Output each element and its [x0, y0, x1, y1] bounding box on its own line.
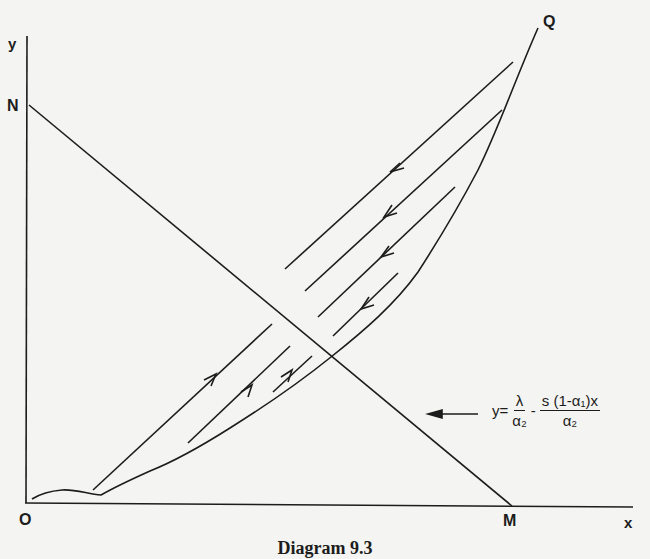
- nm-line-equation: y= λ α₂ - s (1-α₁)x α₂: [492, 392, 604, 429]
- equation-fraction-2: s (1-α₁)x α₂: [540, 392, 600, 429]
- figure-caption: Diagram 9.3: [0, 538, 650, 559]
- point-n-label: N: [7, 98, 19, 114]
- origin-label: O: [19, 512, 31, 528]
- upward-flow-lines: [93, 324, 312, 490]
- equation-operator: -: [531, 402, 536, 419]
- equation-fraction-1: λ α₂: [512, 392, 527, 429]
- y-axis-label: y: [8, 36, 16, 51]
- equation-pointer-arrow: [428, 410, 478, 418]
- x-axis: [25, 503, 633, 507]
- curve-oq: [32, 28, 538, 499]
- fraction-2-denominator: α₂: [563, 411, 578, 429]
- equation-lhs: y=: [492, 402, 508, 419]
- fraction-1-denominator: α₂: [512, 411, 527, 429]
- fraction-2-numerator: s (1-α₁)x: [540, 392, 600, 411]
- point-m-label: M: [503, 513, 516, 529]
- x-axis-label: x: [624, 515, 632, 530]
- point-q-label: Q: [543, 14, 555, 30]
- fraction-1-numerator: λ: [514, 392, 526, 411]
- line-nm: [29, 105, 512, 506]
- y-axis: [26, 36, 27, 503]
